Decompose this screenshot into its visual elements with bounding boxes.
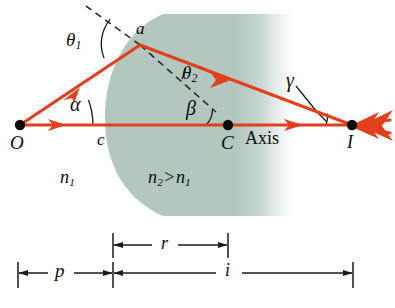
label-vertex-c: c <box>97 131 105 148</box>
label-dimension-i: i <box>225 261 230 279</box>
label-point-C: C <box>221 133 234 152</box>
label-axis: Axis <box>245 129 279 147</box>
label-point-I: I <box>347 133 353 151</box>
label-index-n1: n1 <box>60 168 75 188</box>
figure-canvas: O a c C I Axis θ1 θ2 α β γ n1 n2>n1 r p … <box>0 0 395 308</box>
label-dimension-r: r <box>161 234 168 252</box>
label-angle-gamma: γ <box>286 70 294 90</box>
label-point-a: a <box>136 20 145 37</box>
label-angle-theta2: θ2 <box>182 63 197 85</box>
medium-region-n2 <box>105 14 300 216</box>
label-index-n2-gt-n1: n2>n1 <box>148 168 191 188</box>
label-angle-alpha: α <box>70 94 81 114</box>
dimension-lines <box>18 233 353 288</box>
point-O <box>15 120 25 130</box>
point-C <box>223 120 233 130</box>
label-angle-beta: β <box>186 98 196 118</box>
label-angle-theta1: θ1 <box>66 30 81 52</box>
label-point-O: O <box>10 133 24 152</box>
point-I <box>347 120 357 130</box>
label-dimension-p: p <box>55 261 65 280</box>
